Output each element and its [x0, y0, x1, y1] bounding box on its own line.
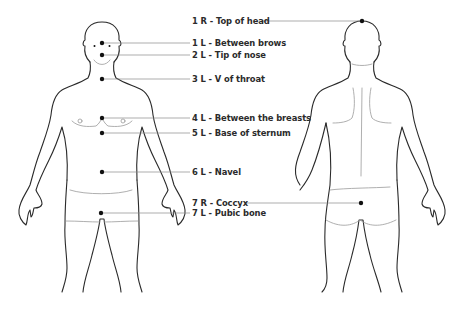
dot-base-of-sternum: [100, 131, 104, 135]
label-pubic-bone: 7 L - Pubic bone: [192, 208, 266, 218]
dot-between-breasts: [100, 116, 104, 120]
dot-navel: [100, 170, 104, 174]
label-v-of-throat: 3 L - V of throat: [192, 74, 265, 84]
label-between-brows: 1 L - Between brows: [192, 38, 286, 48]
dot-brow-left: [94, 45, 96, 47]
label-navel: 6 L - Navel: [192, 167, 241, 177]
back-body-figure: [295, 21, 445, 292]
label-tip-of-nose: 2 L - Tip of nose: [192, 50, 266, 60]
label-top-of-head: 1 R - Top of head: [192, 16, 270, 26]
label-coccyx: 7 R - Coccyx: [192, 198, 248, 208]
label-base-of-sternum: 5 L - Base of sternum: [192, 128, 291, 138]
label-between-the-breasts: 4 L - Between the breasts: [192, 113, 311, 123]
dot-between-brows: [100, 41, 104, 45]
dot-pubic-bone: [99, 211, 103, 215]
front-body-figure: [19, 22, 185, 292]
dot-coccyx: [359, 201, 363, 205]
dot-tip-of-nose: [100, 53, 104, 57]
dot-brow-right: [109, 45, 111, 47]
dot-v-of-throat: [100, 77, 104, 81]
dot-top-of-head: [360, 19, 364, 23]
